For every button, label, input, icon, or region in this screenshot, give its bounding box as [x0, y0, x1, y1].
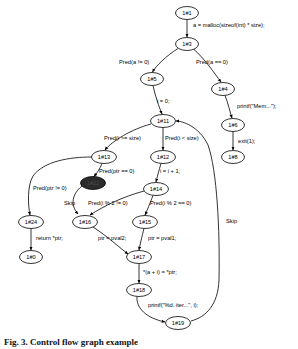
edge-labels-layer: a = malloc(sizeof(int) * size); Pred(a !… — [33, 22, 277, 308]
node-1-15[interactable]: 1#15 — [133, 216, 158, 229]
node-label: 1#13 — [98, 154, 110, 160]
node-1-16[interactable]: 1#16 — [73, 216, 98, 229]
edge-n3-n5 — [153, 49, 179, 73]
edge-n15-n17 — [139, 229, 144, 251]
edge-label-skip-right: Skip — [226, 218, 237, 224]
node-label: 1#3 — [182, 41, 191, 47]
edge-label-pred-mod2-eq-0: Pred(i % 2 == 0) — [150, 200, 192, 206]
node-label: 1#15 — [139, 219, 151, 225]
node-label: 1#16 — [79, 219, 91, 225]
node-1-8[interactable]: 1#8 — [222, 151, 245, 164]
node-label: 1#1 — [182, 10, 191, 16]
edge-label-exit: exit(1); — [238, 138, 256, 144]
node-label: 1#22 — [87, 180, 99, 186]
edge-label-printf-mem: printf("Mem..."); — [237, 103, 277, 109]
node-1-4[interactable]: 1#4 — [212, 83, 235, 96]
edge-label-i-assign-0: i = 0; — [157, 98, 170, 104]
edge-label-pred-a-ne-0: Pred(a != 0) — [119, 59, 149, 65]
node-1-22-highlighted[interactable]: 1#22 — [81, 177, 106, 190]
node-1-5[interactable]: 1#5 — [141, 73, 164, 86]
node-label: 1#8 — [228, 154, 237, 160]
node-label: 1#4 — [218, 86, 227, 92]
node-label: 1#14 — [150, 186, 162, 192]
edge-label-printf-iter: printf("%d. iter...", i); — [148, 302, 199, 308]
node-1-24[interactable]: 1#24 — [19, 216, 44, 229]
edge-label-ptr-pval1: ptr = pval1; — [148, 235, 177, 241]
edge-n3-n4 — [194, 50, 221, 83]
node-label: 1#11 — [157, 118, 169, 124]
node-1-17[interactable]: 1#17 — [127, 251, 152, 264]
node-label: 1#24 — [25, 219, 37, 225]
edge-label-pred-i-lt-size: Pred(i < size) — [165, 135, 199, 141]
node-label: 1#18 — [133, 287, 145, 293]
node-1-13[interactable]: 1#13 — [92, 151, 117, 164]
node-1-18[interactable]: 1#18 — [127, 284, 152, 297]
node-label: 1#5 — [147, 76, 156, 82]
figure-caption: Fig. 3. Control flow graph example — [4, 337, 294, 347]
node-1-6[interactable]: 1#6 — [222, 119, 245, 132]
node-1-11[interactable]: 1#11 — [151, 115, 176, 128]
edge-n18-n19 — [137, 297, 165, 323]
node-1-1[interactable]: 1#1 — [176, 7, 199, 20]
edge-label-i-increment: i = i + 1; — [160, 168, 181, 174]
edge-label-return-ptr: return *ptr; — [36, 235, 63, 241]
node-1-12[interactable]: 1#12 — [151, 151, 176, 164]
edge-label-ptr-pval2: ptr = pval2; — [98, 235, 127, 241]
edge-label-pred-ptr-ne-0: Pred(ptr != 0) — [33, 185, 67, 191]
node-1-14[interactable]: 1#14 — [144, 183, 169, 196]
edge-label-a-malloc: a = malloc(sizeof(int) * size); — [193, 22, 265, 28]
edge-label-skip-left: Skip — [64, 200, 75, 206]
node-label: 1#19 — [172, 320, 184, 326]
edge-label-pred-ptr-eq-0: Pred(ptr == 0) — [99, 168, 135, 174]
node-1-0[interactable]: 1#0 — [20, 251, 43, 264]
figure-container: a = malloc(sizeof(int) * size); Pred(a !… — [0, 0, 298, 349]
control-flow-graph: a = malloc(sizeof(int) * size); Pred(a !… — [0, 0, 298, 349]
edge-label-pred-i-ge-size: Pred(i >= size) — [104, 135, 141, 141]
node-label: 1#17 — [133, 254, 145, 260]
node-1-3[interactable]: 1#3 — [176, 38, 199, 51]
node-label: 1#6 — [228, 122, 237, 128]
node-1-19[interactable]: 1#19 — [166, 317, 191, 330]
edge-n4-n6 — [225, 96, 232, 119]
node-label: 1#0 — [26, 254, 35, 260]
edge-label-pred-a-eq-0: Pred(a == 0) — [196, 59, 228, 65]
edge-n19-n11 — [176, 121, 219, 321]
edge-label-pred-mod2-ne-0: Pred(i % 2 != 0) — [88, 200, 128, 206]
node-label: 1#12 — [157, 154, 169, 160]
edge-label-store-ptr: *(a + i) = *ptr; — [143, 269, 177, 275]
